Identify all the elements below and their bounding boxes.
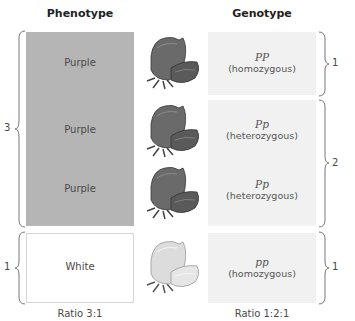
genotype-symbol: Pp: [208, 178, 316, 190]
genotype-symbol: Pp: [208, 118, 316, 130]
phenotype-label: Purple: [26, 124, 134, 135]
phenotype-count: 3: [4, 122, 10, 133]
phenotype-label: Purple: [26, 57, 134, 68]
phenotype-ratio: Ratio 3:1: [26, 308, 134, 319]
genotype-count: 1: [332, 57, 338, 68]
phenotype-label: Purple: [26, 183, 134, 194]
phenotype-brace-3: [14, 30, 26, 228]
genotype-symbol: pp: [208, 256, 316, 268]
purple-flower-icon: [143, 102, 205, 160]
genotype-brace-2: [318, 99, 330, 228]
genotype-brace-1: [318, 31, 330, 97]
genotype-description: (heterozygous): [208, 130, 316, 141]
genotype-description: (homozygous): [208, 63, 316, 74]
genotype-header: Genotype: [208, 7, 316, 20]
phenotype-header: Phenotype: [26, 7, 134, 20]
purple-flower-icon: [143, 34, 205, 92]
genotype-count: 2: [332, 157, 338, 168]
phenotype-count: 1: [4, 261, 10, 272]
white-flower-icon: [143, 238, 205, 296]
genotype-description: (heterozygous): [208, 190, 316, 201]
genotype-count: 1: [332, 261, 338, 272]
phenotype-label: White: [26, 261, 134, 272]
genotype-description: (homozygous): [208, 268, 316, 279]
genotype-ratio: Ratio 1:2:1: [208, 308, 316, 319]
genotype-brace-1b: [318, 231, 330, 305]
purple-flower-icon: [143, 164, 205, 222]
phenotype-brace-1: [14, 231, 26, 305]
genotype-symbol: PP: [208, 51, 316, 63]
